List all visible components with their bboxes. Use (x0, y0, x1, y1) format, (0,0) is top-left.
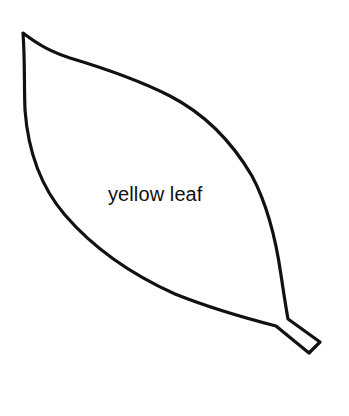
leaf-diagram-canvas: yellow leaf (0, 0, 349, 416)
leaf-outline-icon (0, 0, 349, 416)
leaf-label: yellow leaf (108, 182, 202, 206)
